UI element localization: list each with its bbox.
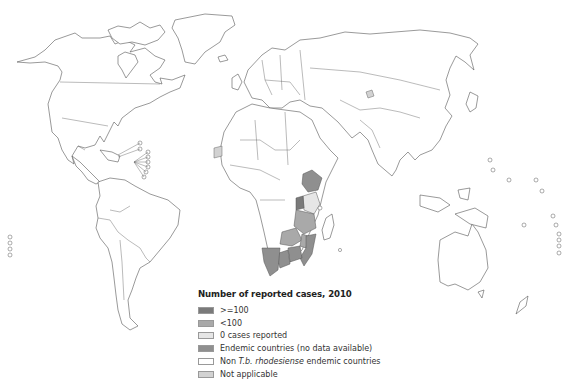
- africa: [220, 104, 338, 264]
- zimbabwe-region: [288, 246, 302, 262]
- legend-item-lt100: <100: [198, 317, 458, 330]
- legend-swatch-not-applicable: [198, 371, 214, 378]
- legend-item-zero: 0 cases reported: [198, 330, 458, 343]
- legend-item-non-endemic: Non T.b. rhodesiense endemic countries: [198, 355, 458, 368]
- legend-label: Endemic countries (no data available): [220, 344, 372, 353]
- legend-item-not-applicable: Not applicable: [198, 368, 458, 381]
- legend-swatch-ge100: [198, 307, 214, 314]
- legend-swatch-lt100: [198, 320, 214, 327]
- uganda-region: [296, 196, 304, 210]
- legend-label: <100: [220, 319, 242, 328]
- legend-label: Not applicable: [220, 370, 278, 379]
- legend-swatch-non-endemic: [198, 358, 214, 365]
- legend-title: Number of reported cases, 2010: [198, 289, 458, 299]
- legend-label: Non T.b. rhodesiense endemic countries: [220, 357, 381, 366]
- legend-label: 0 cases reported: [220, 331, 287, 340]
- caribbean-islands: [118, 141, 150, 179]
- north-america: [17, 14, 235, 184]
- south-america: [96, 178, 180, 330]
- namibia-region: [262, 248, 280, 276]
- map-legend: Number of reported cases, 2010 >=100 <10…: [198, 289, 458, 381]
- legend-item-ge100: >=100: [198, 304, 458, 317]
- legend-label: >=100: [220, 306, 249, 315]
- legend-swatch-endemic-no-data: [198, 345, 214, 352]
- legend-item-endemic-no-data: Endemic countries (no data available): [198, 342, 458, 355]
- legend-swatch-zero: [198, 332, 214, 339]
- western-sahara-region: [214, 146, 222, 158]
